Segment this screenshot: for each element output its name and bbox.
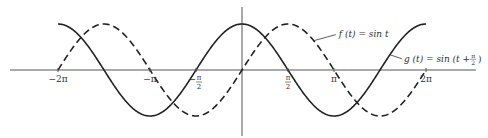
svg-text:2: 2	[286, 83, 290, 91]
svg-text:): )	[478, 54, 482, 64]
tick-label: π2	[285, 74, 291, 91]
tick-label: −2π	[48, 74, 67, 84]
tick-label: −π2	[188, 74, 202, 91]
f-pointer	[314, 35, 336, 41]
g-pointer	[390, 55, 402, 59]
svg-text:−: −	[188, 74, 196, 85]
sine-chart: −2π−π−π2π2π2π f (t) = sin tg (t) = sin (…	[0, 0, 488, 138]
chart-canvas: −2π−π−π2π2π2π f (t) = sin tg (t) = sin (…	[0, 0, 488, 138]
svg-text:g (t) = sin (t +: g (t) = sin (t +	[404, 54, 470, 64]
svg-text:π: π	[197, 74, 202, 82]
g-label: g (t) = sin (t + π2)	[404, 52, 482, 66]
f-label: f (t) = sin t	[338, 29, 389, 39]
axes	[10, 7, 476, 136]
svg-text:π: π	[286, 74, 291, 82]
tick-label: π	[331, 74, 337, 84]
svg-text:π: π	[471, 52, 475, 59]
svg-text:2: 2	[471, 59, 475, 66]
annotations: f (t) = sin tg (t) = sin (t + π2)	[314, 29, 482, 66]
tick-label: −π	[143, 74, 157, 84]
tick-label: 2π	[420, 74, 432, 84]
svg-text:2: 2	[197, 83, 201, 91]
